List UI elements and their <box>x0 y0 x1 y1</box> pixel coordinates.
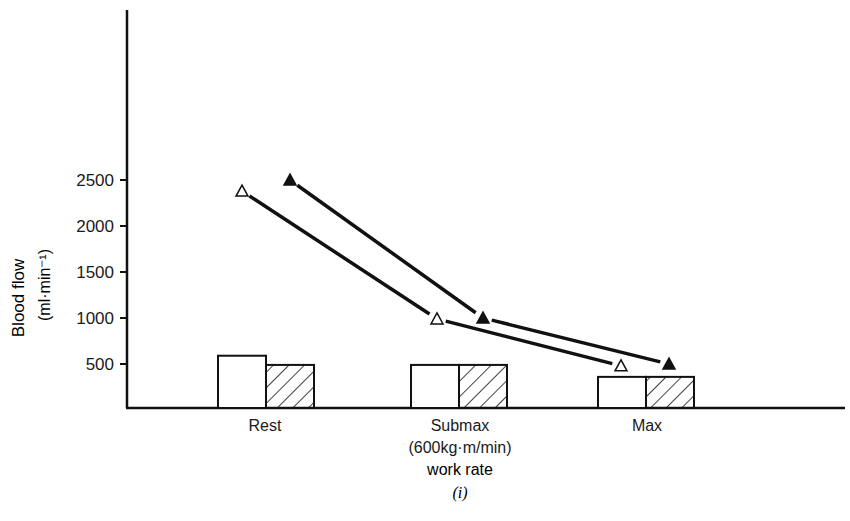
y-axis-label: Blood flow <box>9 258 28 337</box>
open-bar <box>218 356 266 408</box>
svg-text:2500: 2500 <box>76 171 114 190</box>
y-tick-labels: 2500 2000 1500 1000 500 <box>76 171 114 374</box>
open-bar <box>411 365 459 408</box>
svg-text:Submax: Submax <box>431 417 490 434</box>
line-series <box>236 174 675 371</box>
hatched-bar <box>266 365 314 408</box>
filled-triangle-marker <box>284 174 296 185</box>
svg-text:Rest: Rest <box>249 417 282 434</box>
open-triangle-marker <box>615 360 627 371</box>
svg-text:Max: Max <box>632 417 662 434</box>
filled-triangle-marker <box>663 358 675 369</box>
open-triangle-marker <box>431 313 443 324</box>
x-axis-label: work rate <box>426 461 493 478</box>
hatched-bar <box>646 377 694 408</box>
svg-text:1000: 1000 <box>76 309 114 328</box>
svg-text:500: 500 <box>86 355 114 374</box>
chart: 2500 2000 1500 1000 500 Blood flow (ml·m… <box>0 0 850 521</box>
panel-label: (i) <box>452 484 467 502</box>
svg-text:2000: 2000 <box>76 217 114 236</box>
svg-text:1500: 1500 <box>76 263 114 282</box>
open-bar <box>598 377 646 408</box>
x-category-labels: Rest Submax (600kg·m/min) Max <box>249 417 663 456</box>
filled-triangle-marker <box>477 312 489 323</box>
hatched-bar <box>459 365 507 408</box>
svg-text:(600kg·m/min): (600kg·m/min) <box>408 439 511 456</box>
open-triangle-marker <box>236 185 248 196</box>
y-axis-units: (ml·min⁻¹) <box>36 249 53 321</box>
